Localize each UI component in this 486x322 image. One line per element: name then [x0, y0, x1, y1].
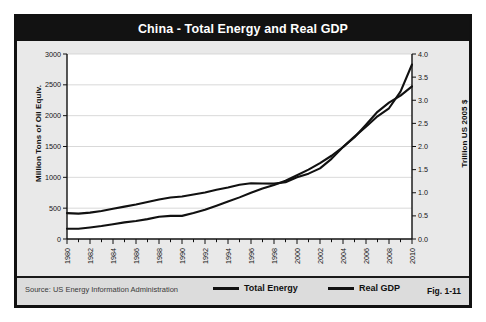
legend-item-total-energy: Total Energy — [213, 283, 298, 293]
legend-label-real-gdp: Real GDP — [359, 283, 400, 293]
svg-text:3000: 3000 — [45, 50, 61, 59]
legend-line-swatch-real-gdp — [328, 287, 354, 290]
svg-text:1988: 1988 — [155, 248, 164, 264]
svg-text:1984: 1984 — [109, 248, 118, 264]
chart-plot-area: Million Tons of Oil Equiv. Trillion US 2… — [17, 41, 469, 284]
svg-text:4.0: 4.0 — [418, 50, 428, 59]
svg-text:1998: 1998 — [270, 248, 279, 264]
figure-footer: Source: US Energy Information Administra… — [17, 276, 469, 305]
svg-text:1986: 1986 — [132, 248, 141, 264]
svg-text:1.0: 1.0 — [418, 188, 428, 197]
svg-text:0: 0 — [57, 235, 61, 244]
svg-text:0.5: 0.5 — [418, 211, 428, 220]
legend-item-real-gdp: Real GDP — [328, 283, 400, 293]
figure-number: Fig. 1-11 — [427, 286, 461, 296]
legend-line-swatch-total-energy — [213, 287, 239, 290]
svg-text:2004: 2004 — [339, 248, 348, 264]
svg-text:1994: 1994 — [224, 248, 233, 264]
svg-text:2.5: 2.5 — [418, 119, 428, 128]
svg-text:1990: 1990 — [178, 248, 187, 264]
source-caption: Source: US Energy Information Administra… — [25, 285, 178, 294]
chart-svg: 0500100015002000250030000.00.51.01.52.02… — [17, 41, 475, 284]
legend-label-total-energy: Total Energy — [244, 283, 298, 293]
figure-frame: China - Total Energy and Real GDP Millio… — [14, 14, 472, 308]
svg-text:1980: 1980 — [63, 248, 72, 264]
svg-text:2006: 2006 — [362, 248, 371, 264]
svg-text:1500: 1500 — [45, 142, 61, 151]
page-title: China - Total Energy and Real GDP — [138, 22, 348, 36]
svg-text:1996: 1996 — [247, 248, 256, 264]
svg-text:1982: 1982 — [86, 248, 95, 264]
svg-text:2.0: 2.0 — [418, 142, 428, 151]
svg-text:2500: 2500 — [45, 80, 61, 89]
svg-text:2000: 2000 — [45, 111, 61, 120]
svg-text:3.0: 3.0 — [418, 96, 428, 105]
svg-text:0.0: 0.0 — [418, 235, 428, 244]
svg-text:2002: 2002 — [316, 248, 325, 264]
figure-title-bar: China - Total Energy and Real GDP — [17, 17, 469, 41]
svg-text:1000: 1000 — [45, 173, 61, 182]
svg-text:2008: 2008 — [385, 248, 394, 264]
svg-text:2010: 2010 — [408, 248, 417, 264]
svg-text:3.5: 3.5 — [418, 73, 428, 82]
svg-text:500: 500 — [49, 204, 61, 213]
svg-text:2000: 2000 — [293, 248, 302, 264]
svg-text:1.5: 1.5 — [418, 165, 428, 174]
svg-text:1992: 1992 — [201, 248, 210, 264]
